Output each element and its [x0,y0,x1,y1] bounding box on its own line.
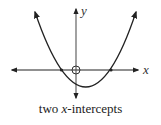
x-intercept-point-left [60,68,63,71]
x-axis-label: x [142,62,149,77]
graph-caption: two x-intercepts [0,101,161,117]
x-intercept-point-right [109,68,112,71]
parabola-curve [35,12,136,87]
y-axis-label: y [79,3,87,18]
caption-prefix: two [39,101,62,116]
parabola-graph: y x [0,0,161,100]
caption-suffix: -intercepts [67,101,122,116]
